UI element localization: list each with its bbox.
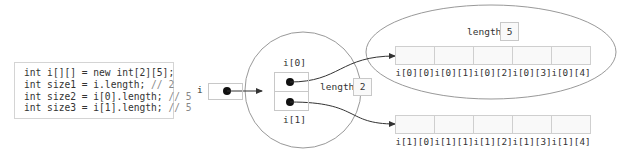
inner-0-cell: [395, 46, 435, 65]
inner-0-indices: i[0][0] i[0][1] i[0][2] i[0][3] i[0][4]: [395, 67, 591, 78]
index-label: i[1][2]: [473, 136, 513, 147]
code-line-2: int size1 = i.length; // 2: [24, 79, 173, 91]
inner-1-cell: [551, 115, 591, 134]
inner-0-cell: [473, 46, 513, 65]
inner-0-cell: [434, 46, 474, 65]
outer-index-0-label: i[0]: [283, 57, 306, 68]
code-snippet: int i[][] = new int[2][5]; int size1 = i…: [14, 62, 174, 119]
inner-1-cell: [512, 115, 552, 134]
outer-cell-1: [274, 91, 309, 111]
index-label: i[0][3]: [512, 67, 552, 78]
index-label: i[0][0]: [395, 67, 435, 78]
index-label: i[0][1]: [434, 67, 474, 78]
outer-index-1-label: i[1]: [283, 114, 306, 125]
inner-0-cell: [512, 46, 552, 65]
index-label: i[1][3]: [512, 136, 552, 147]
variable-name: i: [197, 84, 203, 95]
inner-1-indices: i[1][0] i[1][1] i[1][2] i[1][3] i[1][4]: [395, 136, 591, 147]
inner-1-cell: [434, 115, 474, 134]
inner-1-cell: [395, 115, 435, 134]
index-label: i[1][4]: [551, 136, 591, 147]
code-line-1: int i[][] = new int[2][5];: [24, 67, 173, 79]
variable-box: [208, 83, 243, 100]
outer-length-value: 2: [353, 78, 372, 96]
inner-0-length-label: length: [467, 26, 501, 37]
code-line-3: int size2 = i[0].length; // 5: [24, 91, 173, 103]
inner-array-1: [395, 115, 591, 134]
index-label: i[1][1]: [434, 136, 474, 147]
inner-1-cell: [473, 115, 513, 134]
outer-cell-0: [274, 72, 309, 92]
code-line-4: int size3 = i[1].length; // 5: [24, 102, 173, 114]
index-label: i[0][2]: [473, 67, 513, 78]
index-label: i[1][0]: [395, 136, 435, 147]
inner-0-cell: [551, 46, 591, 65]
index-label: i[0][4]: [551, 67, 591, 78]
array-diagram: int i[][] = new int[2][5]; int size1 = i…: [0, 0, 627, 159]
outer-length-label: length: [320, 81, 354, 92]
inner-array-0: [395, 46, 591, 65]
inner-0-length-value: 5: [500, 22, 519, 41]
